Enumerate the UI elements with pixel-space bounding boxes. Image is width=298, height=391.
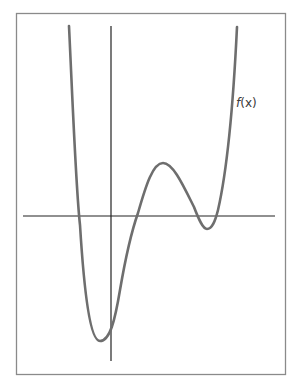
curve-label-x: (x) [240,96,256,110]
function-graph [0,0,298,391]
frame-border [17,14,286,375]
curve-label: f(x) [236,96,257,110]
